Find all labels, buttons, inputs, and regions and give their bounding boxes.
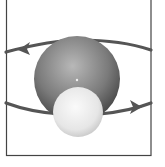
orbit-diagram [0, 0, 165, 167]
center-marker [76, 79, 78, 81]
arrow-right-icon [130, 100, 142, 114]
orbiting-body [53, 87, 103, 137]
